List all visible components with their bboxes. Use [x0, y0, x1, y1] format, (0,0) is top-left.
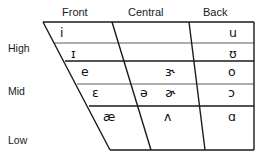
vowel-symbol-open-o: ɔ	[228, 87, 235, 100]
central-back-divider-line	[189, 22, 205, 150]
left-slant-edge-line	[43, 22, 110, 150]
vowel-symbol-rhotic-reversed-epsilon: ɝ	[165, 66, 175, 79]
vowel-symbol-e: e	[81, 66, 89, 79]
backness-boundaries	[43, 22, 254, 150]
vowel-symbol-turned-v: ʌ	[164, 111, 171, 124]
height-boundaries	[43, 22, 254, 150]
column-header-front: Front	[62, 6, 88, 18]
row-label-high: High	[8, 42, 30, 54]
vowel-symbol-script-a: ɑ	[228, 111, 236, 124]
vowel-symbol-epsilon: ɛ	[92, 87, 99, 100]
column-header-central: Central	[128, 6, 163, 18]
vowel-symbol-ash: æ	[103, 111, 115, 124]
vowel-symbol-u: u	[229, 27, 237, 40]
row-label-low: Low	[8, 134, 27, 146]
vowel-chart: Front Central Back High Mid Low i ɪ u ʊ …	[0, 0, 272, 158]
vowel-symbol-schwa: ə	[140, 87, 148, 100]
vowel-symbol-i: i	[60, 27, 63, 40]
vowel-symbol-rhotic-schwa: ɚ	[165, 87, 175, 100]
vowel-symbol-small-capital-i: ɪ	[71, 48, 76, 61]
row-label-mid: Mid	[8, 85, 25, 97]
vowel-symbol-upsilon: ʊ	[229, 48, 237, 61]
column-header-back: Back	[203, 6, 227, 18]
vowel-chart-grid	[0, 0, 272, 158]
vowel-symbol-o: o	[228, 66, 236, 79]
